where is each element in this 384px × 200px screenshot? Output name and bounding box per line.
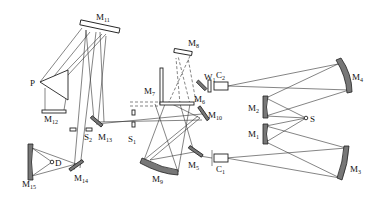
mirror-m15 (28, 144, 33, 180)
slit-s2-a (70, 128, 76, 131)
source-s (304, 116, 308, 120)
svg-text:D: D (55, 158, 62, 168)
svg-text:P: P (30, 78, 35, 88)
svg-text:W1: W1 (204, 72, 216, 83)
mirror-m7 (160, 68, 163, 104)
svg-text:M2: M2 (248, 103, 259, 114)
mirror-m4 (336, 58, 352, 93)
slit-s1-top (132, 110, 135, 115)
svg-text:M1: M1 (248, 129, 259, 140)
detector-d (50, 160, 54, 164)
mirror-m6 (160, 102, 194, 105)
optical-diagram: M11 P M12 S2 M13 S1 D M15 M14 M9 M8 M7 M… (0, 0, 384, 200)
cell-c1 (214, 154, 228, 162)
svg-text:M8: M8 (188, 38, 199, 49)
svg-text:S: S (310, 114, 315, 124)
mirror-m2 (263, 96, 268, 118)
mirror-m1 (263, 124, 268, 144)
svg-text:M10: M10 (208, 110, 222, 121)
slit-s1-bot (132, 122, 135, 127)
svg-text:M5: M5 (188, 160, 199, 171)
slit-s2-b (86, 128, 92, 131)
mirror-m12 (42, 110, 66, 113)
svg-text:S2: S2 (84, 132, 92, 143)
mirror-m9 (140, 158, 178, 175)
svg-text:S1: S1 (128, 134, 136, 145)
svg-text:M13: M13 (98, 132, 112, 143)
prism (40, 70, 68, 100)
svg-text:M7: M7 (144, 86, 155, 97)
mirror-m5 (188, 146, 203, 158)
svg-text:M15: M15 (22, 179, 36, 190)
svg-text:C1: C1 (216, 164, 225, 175)
svg-text:C2: C2 (216, 70, 225, 81)
svg-text:M11: M11 (96, 12, 110, 23)
svg-text:M4: M4 (352, 72, 363, 83)
svg-text:M6: M6 (194, 94, 205, 105)
svg-text:M9: M9 (152, 174, 163, 185)
mirror-m13 (90, 116, 103, 127)
mirror-m3 (337, 146, 349, 180)
labels: M11 P M12 S2 M13 S1 D M15 M14 M9 M8 M7 M… (22, 12, 363, 190)
svg-text:M3: M3 (350, 164, 361, 175)
svg-text:M14: M14 (74, 173, 88, 184)
mirror-m8 (174, 48, 192, 55)
cell-c2 (214, 82, 228, 90)
svg-text:M12: M12 (44, 114, 58, 125)
